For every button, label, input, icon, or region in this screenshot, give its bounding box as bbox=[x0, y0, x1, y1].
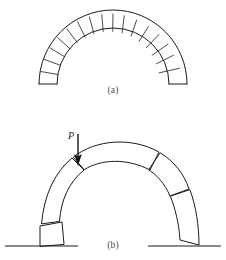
load-label-p: P bbox=[67, 130, 74, 141]
caption-panel-a: (a) bbox=[107, 85, 118, 96]
panel-a-group: (a) bbox=[39, 10, 187, 96]
panel-b-group: P (b) bbox=[5, 130, 221, 251]
arch-b-block-left-foot bbox=[40, 222, 64, 246]
arch-a-intrados bbox=[57, 28, 169, 84]
figure-root: (a) P (b) bbox=[0, 0, 226, 260]
arch-a-joints bbox=[41, 14, 179, 75]
arch-b-segment-crown bbox=[74, 142, 160, 170]
caption-panel-b: (b) bbox=[107, 240, 119, 251]
arch-b-segment-left bbox=[42, 158, 85, 224]
arch-b-segment-right-lower bbox=[171, 190, 200, 245]
arch-figure-svg: (a) P (b) bbox=[0, 0, 226, 260]
